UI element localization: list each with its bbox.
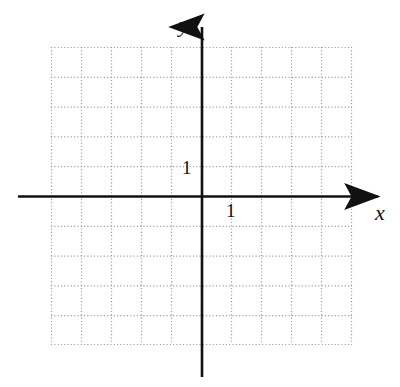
coordinate-plane-svg xyxy=(0,0,400,387)
x-axis-label: x xyxy=(375,202,385,224)
y-axis-unit-tick-label: 1 xyxy=(182,158,192,177)
y-axis-label: y xyxy=(179,14,189,36)
x-axis-unit-tick-label: 1 xyxy=(226,201,236,220)
coordinate-grid-figure: y x 1 1 xyxy=(0,0,400,387)
